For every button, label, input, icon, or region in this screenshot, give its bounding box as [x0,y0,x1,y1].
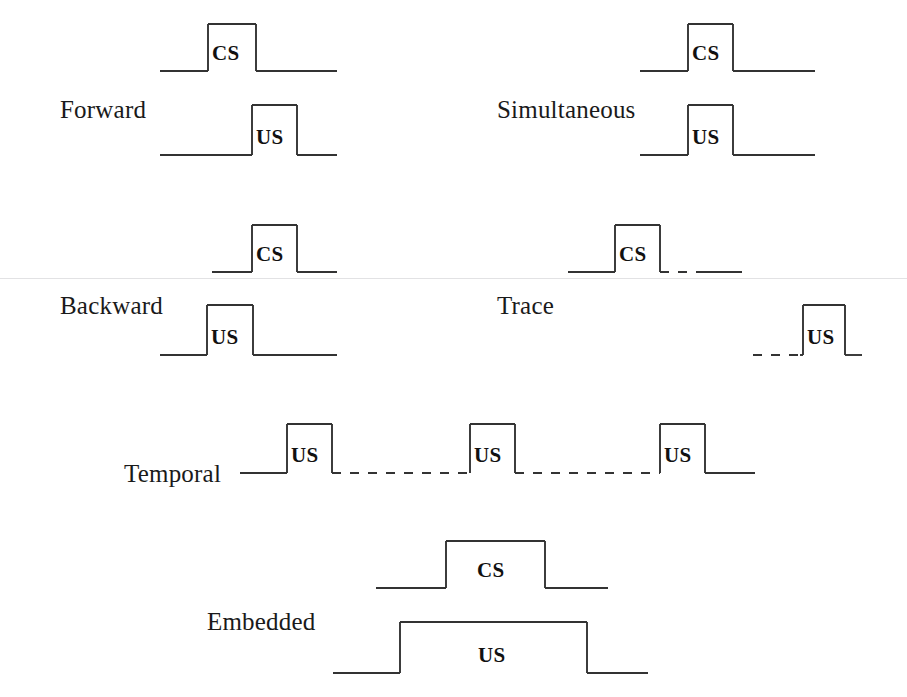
backward-cs-pulse-label: CS [256,242,283,266]
trace-cs-pulse-label: CS [619,242,646,266]
paradigm-label-trace: Trace [497,292,554,320]
trace-us-pulse-label: US [807,325,834,349]
paradigm-label-forward: Forward [60,96,146,124]
embedded-us-pulse-label: US [478,643,505,667]
paradigm-label-simultaneous: Simultaneous [497,96,636,124]
simultaneous-us-pulse-label: US [692,125,719,149]
scan-artifact-0 [0,278,907,279]
conditioning-paradigms-figure: CSUSCSUSCSUSCSUSUSUSUSCSUS ForwardSimult… [0,0,907,697]
embedded-cs-pulse-label: CS [477,558,504,582]
temporal-us-train-pulse-label-2: US [664,443,691,467]
paradigm-label-backward: Backward [60,292,163,320]
paradigm-label-temporal: Temporal [124,460,221,488]
simultaneous-cs-pulse-label: CS [692,41,719,65]
forward-us-pulse-label: US [256,125,283,149]
backward-us-pulse-label: US [211,325,238,349]
temporal-us-train-pulse-label-1: US [474,443,501,467]
forward-cs-pulse-label: CS [212,41,239,65]
temporal-us-train-pulse-label-0: US [291,443,318,467]
paradigm-label-embedded: Embedded [207,608,316,636]
